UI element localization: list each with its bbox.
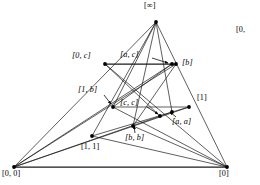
node-label-a_a: [a, a]: [172, 118, 191, 126]
node-label-b_b: [b, b]: [125, 134, 144, 142]
node-label-zero: [0]: [219, 170, 229, 178]
edges-group: [14, 22, 227, 167]
edge-infinity-to-zero: [156, 22, 227, 167]
node-label-infinity: [∞]: [144, 2, 156, 10]
edge-zero_zero-to-a_a: [14, 112, 172, 167]
edge-zero-to-one_one: [92, 136, 227, 167]
vertex-one_b: [111, 105, 115, 109]
vertex-a_c: [170, 62, 174, 66]
vertex-one_one: [90, 134, 94, 138]
edge-b-to-b_b: [133, 64, 176, 126]
vertex-a_a: [170, 110, 174, 114]
node-label-c_c: [c, c]: [120, 99, 138, 107]
figure-container: [∞][0, c][a, c][b][1, b][c, c][1][a, a][…: [0, 0, 260, 185]
vertex-one: [187, 105, 191, 109]
node-label-zero_c: [0, c]: [72, 52, 91, 60]
edge-zero_zero-to-b: [14, 64, 176, 167]
node-label-a_c: [a, c]: [120, 51, 139, 59]
node-label-one_one: [1, 1]: [81, 143, 99, 151]
edge-zero-to-b_b: [133, 126, 227, 167]
node-label-one: [1]: [197, 94, 207, 102]
vertex-c_c: [158, 114, 162, 118]
node-label-zero_zero: [0, 0]: [2, 170, 20, 178]
leader-line-c_c: [147, 107, 158, 114]
vertex-b_b: [131, 124, 135, 128]
vertex-b: [174, 62, 178, 66]
vertex-infinity: [154, 20, 158, 24]
clipped-right-edge-label: [0,: [236, 26, 245, 34]
leader-line-one_b: [104, 95, 111, 104]
node-label-one_b: [1, b]: [78, 86, 97, 94]
node-label-b: [b]: [182, 59, 193, 67]
edge-infinity-to-a_a: [156, 22, 172, 112]
leader-line-a_c: [152, 58, 168, 63]
edge-infinity-to-one_one: [92, 22, 156, 136]
lattice-diagram-canvas: [0, 0, 260, 185]
vertex-zero_c: [103, 62, 107, 66]
